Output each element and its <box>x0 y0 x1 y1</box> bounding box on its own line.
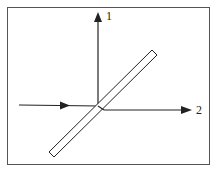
output-label-1: 1 <box>106 10 112 22</box>
output-label-2: 2 <box>196 104 202 116</box>
beam-splitter-plate <box>49 50 157 157</box>
beam-splitter-diagram <box>0 0 216 173</box>
output-2-arrowhead-icon <box>181 106 192 114</box>
input-beam <box>19 105 99 106</box>
output-1-arrowhead-icon <box>94 12 102 22</box>
input-arrowhead-icon <box>60 102 70 110</box>
frame <box>8 8 210 165</box>
